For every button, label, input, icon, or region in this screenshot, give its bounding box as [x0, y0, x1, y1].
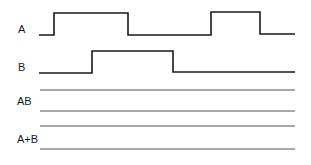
ab-row-label: AB	[17, 96, 32, 107]
signal-a-label: A	[18, 24, 25, 35]
a-or-b-row-label: A+B	[17, 134, 38, 145]
signal-b-waveform	[39, 51, 295, 73]
signal-a-waveform	[39, 12, 295, 35]
timing-diagram-canvas	[0, 0, 311, 165]
signal-b-label: B	[18, 62, 25, 73]
